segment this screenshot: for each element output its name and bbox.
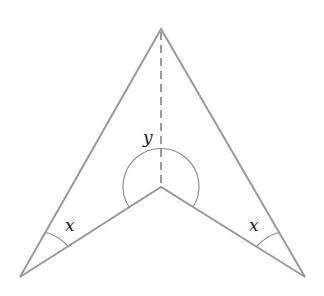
- angle-label-x-right: x: [249, 215, 259, 235]
- angle-label-x-left: x: [65, 215, 75, 235]
- angle-label-y: y: [142, 127, 153, 147]
- arrowhead-outline: [20, 29, 305, 277]
- angle-arc-bottom-right-x: [257, 232, 280, 246]
- arrowhead-diagram: y x x: [0, 0, 324, 296]
